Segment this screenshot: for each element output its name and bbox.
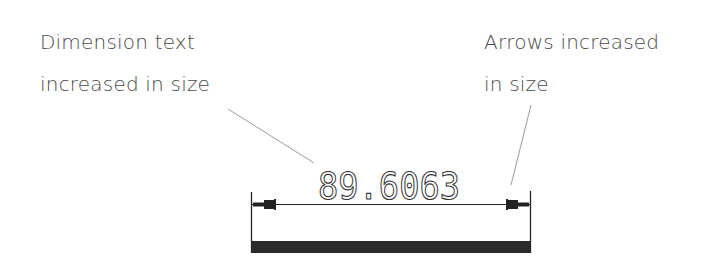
dimension-value: 89.6063 [318, 164, 460, 204]
dimension-drawing [0, 0, 728, 260]
dimension-value-text: 89.6063 [318, 164, 462, 204]
arrowhead-left-icon [253, 199, 276, 210]
arrowhead-right-icon [506, 199, 529, 210]
leader-line-left [228, 109, 314, 163]
leader-line-right [511, 105, 531, 185]
object-bar [251, 241, 531, 253]
